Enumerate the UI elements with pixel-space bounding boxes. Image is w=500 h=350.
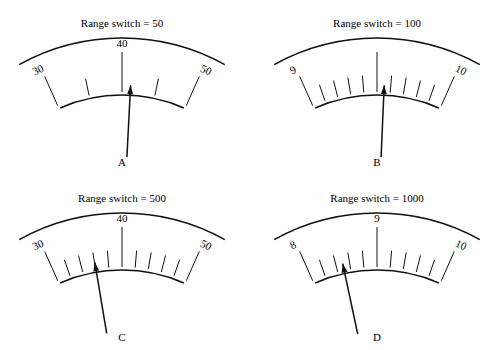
gauge-title: Range switch = 500 <box>78 192 166 204</box>
major-tick <box>300 251 313 280</box>
panel-letter: D <box>373 331 381 343</box>
scale-label: 9 <box>374 212 380 224</box>
scale-label: 8 <box>288 238 299 251</box>
gauge-d: Range switch = 10008910D <box>274 192 480 343</box>
major-tick <box>45 76 58 105</box>
scale-label: 9 <box>288 63 299 76</box>
pointer-arrowhead-icon <box>93 262 99 271</box>
panel-letter: B <box>373 156 380 168</box>
minor-tick <box>148 253 151 270</box>
minor-tick <box>64 260 70 276</box>
minor-tick <box>429 260 435 276</box>
pointer-arrowhead-icon <box>381 85 387 94</box>
pointer-needle <box>95 262 107 333</box>
inner-scale-arc <box>60 95 184 108</box>
minor-tick <box>334 256 338 273</box>
gauge-a: Range switch = 50304050A <box>19 17 225 168</box>
minor-tick <box>334 81 338 98</box>
minor-tick <box>86 79 90 96</box>
scale-label: 30 <box>30 237 45 253</box>
scale-label: 50 <box>199 237 214 253</box>
pointer-needle <box>343 264 358 334</box>
gauge-title: Range switch = 100 <box>333 17 421 29</box>
scale-label: 10 <box>454 62 469 78</box>
gauge-b: Range switch = 100910B <box>274 17 480 168</box>
minor-tick <box>362 76 363 93</box>
minor-tick <box>161 256 165 273</box>
major-tick <box>186 76 199 105</box>
scale-label: 40 <box>117 37 129 49</box>
scale-label: 50 <box>199 62 214 78</box>
inner-scale-arc <box>315 270 439 283</box>
minor-tick <box>403 78 406 95</box>
major-tick <box>441 76 454 105</box>
minor-tick <box>429 85 435 101</box>
inner-scale-arc <box>60 270 184 283</box>
minor-tick <box>390 251 391 268</box>
minor-tick <box>416 81 420 98</box>
gauge-title: Range switch = 50 <box>81 17 164 29</box>
minor-tick <box>319 260 325 276</box>
gauge-c: Range switch = 500304050C <box>19 192 225 343</box>
minor-tick <box>403 253 406 270</box>
scale-label: 30 <box>30 62 45 78</box>
minor-tick <box>390 76 391 93</box>
minor-tick <box>135 251 136 268</box>
panel-letter: C <box>118 331 125 343</box>
scale-label: 40 <box>117 212 129 224</box>
scale-label: 10 <box>454 237 469 253</box>
panel-letter: A <box>118 156 126 168</box>
major-tick <box>441 251 454 280</box>
major-tick <box>45 251 58 280</box>
minor-tick <box>348 253 351 270</box>
gauge-title: Range switch = 1000 <box>330 192 424 204</box>
minor-tick <box>416 256 420 273</box>
minor-tick <box>155 79 159 96</box>
minor-tick <box>362 251 363 268</box>
inner-scale-arc <box>315 95 439 108</box>
minor-tick <box>174 260 180 276</box>
minor-tick <box>319 85 325 101</box>
pointer-needle <box>381 85 384 157</box>
major-tick <box>186 251 199 280</box>
minor-tick <box>107 251 108 268</box>
minor-tick <box>348 78 351 95</box>
minor-tick <box>79 256 83 273</box>
meter-figure: Range switch = 50304050ARange switch = 1… <box>0 0 500 350</box>
major-tick <box>300 76 313 105</box>
pointer-arrowhead-icon <box>127 85 133 94</box>
